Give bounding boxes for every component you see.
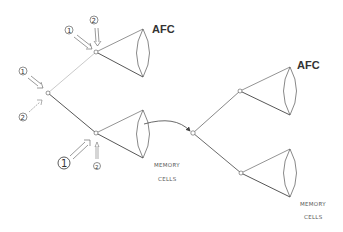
stimulus-arrow-1-upper: 1 bbox=[65, 26, 92, 49]
right-root-node bbox=[191, 131, 195, 135]
stimulus-arrow-1-root: 1 bbox=[19, 67, 43, 88]
left-tree: AFC MEMORY CELLS 1 2 1 bbox=[19, 16, 180, 182]
svg-text:1: 1 bbox=[21, 68, 25, 76]
right-lower-cone-memory bbox=[239, 149, 297, 197]
transition-arrow bbox=[144, 121, 190, 131]
branch-root-to-lower bbox=[48, 93, 96, 133]
upper-node bbox=[94, 50, 98, 54]
svg-text:2: 2 bbox=[21, 114, 25, 122]
svg-text:1: 1 bbox=[61, 158, 67, 169]
stimulus-arrow-1-lower-large: 1 bbox=[58, 140, 90, 169]
stimulus-arrow-2-root: 2 bbox=[19, 100, 42, 122]
svg-text:1: 1 bbox=[67, 27, 71, 35]
root-node bbox=[46, 91, 50, 95]
svg-text:2: 2 bbox=[92, 17, 96, 25]
stimulus-arrow-2-upper: 2 bbox=[90, 16, 101, 46]
svg-text:2: 2 bbox=[95, 164, 99, 170]
right-upper-cone-afc bbox=[238, 67, 297, 115]
upper-cone-afc bbox=[94, 29, 150, 77]
lower-node bbox=[94, 131, 98, 135]
cells-label-right: CELLS bbox=[304, 214, 323, 220]
afc-label-right: AFC bbox=[297, 59, 320, 71]
stimulus-arrow-2-lower-small: 2 bbox=[94, 142, 101, 170]
lower-cone-memory bbox=[94, 110, 150, 158]
cells-label-left: CELLS bbox=[158, 176, 177, 182]
right-tree: AFC MEMORY CELLS bbox=[191, 59, 326, 220]
branch-root-to-upper bbox=[48, 52, 96, 93]
clonal-expansion-diagram: AFC MEMORY CELLS 1 2 1 bbox=[0, 0, 343, 232]
memory-label-right: MEMORY bbox=[300, 201, 326, 207]
memory-label-left: MEMORY bbox=[154, 162, 180, 168]
afc-label-left: AFC bbox=[152, 23, 175, 35]
